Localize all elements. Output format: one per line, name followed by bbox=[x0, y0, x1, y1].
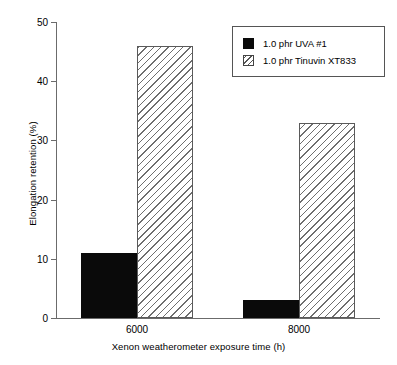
x-axis-label: Xenon weatherometer exposure time (h) bbox=[0, 341, 397, 352]
bar bbox=[137, 46, 193, 318]
legend-item: 1.0 phr UVA #1 bbox=[243, 35, 375, 51]
bar-chart-figure: Elongation retention (%) 01020304050 600… bbox=[0, 0, 397, 365]
bar bbox=[81, 253, 137, 318]
legend-swatch-solid-icon bbox=[243, 38, 254, 49]
y-tick-mark bbox=[51, 140, 56, 141]
x-tick-label: 8000 bbox=[288, 324, 310, 335]
bar bbox=[243, 300, 299, 318]
y-axis-line bbox=[56, 22, 57, 318]
legend-item-label: 1.0 phr Tinuvin XT833 bbox=[263, 55, 356, 66]
x-tick-label: 6000 bbox=[126, 324, 148, 335]
y-tick-label: 0 bbox=[42, 313, 48, 324]
y-tick-label: 30 bbox=[37, 135, 48, 146]
y-tick-label: 50 bbox=[37, 17, 48, 28]
y-tick-mark bbox=[51, 259, 56, 260]
y-tick-mark bbox=[51, 318, 56, 319]
y-tick-mark bbox=[51, 81, 56, 82]
y-tick-label: 20 bbox=[37, 194, 48, 205]
y-axis-label: Elongation retention (%) bbox=[27, 69, 38, 279]
y-tick-label: 10 bbox=[37, 253, 48, 264]
legend-item: 1.0 phr Tinuvin XT833 bbox=[243, 52, 375, 68]
legend-swatch-hatched-icon bbox=[243, 55, 254, 66]
y-tick-label: 40 bbox=[37, 76, 48, 87]
chart-legend: 1.0 phr UVA #1 1.0 phr Tinuvin XT833 bbox=[232, 26, 385, 77]
x-axis-line bbox=[56, 318, 380, 319]
y-tick-mark bbox=[51, 22, 56, 23]
legend-item-label: 1.0 phr UVA #1 bbox=[263, 38, 327, 49]
y-tick-mark bbox=[51, 200, 56, 201]
bar bbox=[299, 123, 355, 318]
